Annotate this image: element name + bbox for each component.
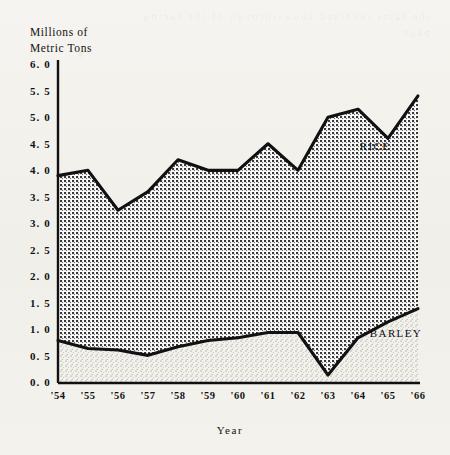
y-tick-label: 2. 0: [30, 270, 51, 282]
y-tick-label: 0. 0: [30, 376, 51, 388]
x-tick-label: '54: [50, 390, 65, 401]
y-axis-tick-labels: 6. 0 5. 5 5. 0 4. 5 4. 0 3. 5 3. 0 2. 5 …: [30, 58, 51, 388]
y-tick-label: 1. 5: [30, 297, 51, 309]
x-axis-title: Year: [217, 424, 244, 436]
y-tick-label: 3. 0: [30, 217, 51, 229]
barley-series-label: BARLEY: [370, 327, 422, 339]
x-tick-label: '55: [80, 390, 95, 401]
y-tick-label: 2. 5: [30, 244, 51, 256]
x-tick-label: '60: [230, 390, 245, 401]
x-tick-label: '66: [410, 390, 425, 401]
y-tick-label: 3. 5: [30, 191, 51, 203]
y-tick-label: 4. 5: [30, 138, 51, 150]
x-tick-label: '59: [200, 390, 215, 401]
chart-root: Millions of Metric Tons 6. 0 5. 5 5. 0 4…: [0, 0, 450, 455]
x-tick-label: '58: [170, 390, 185, 401]
y-tick-label: 5. 0: [30, 111, 51, 123]
y-tick-label: 1. 0: [30, 323, 51, 335]
x-tick-label: '57: [140, 390, 155, 401]
x-tick-label: '62: [290, 390, 305, 401]
y-tick-label: 5. 5: [30, 85, 51, 97]
y-tick-label: 6. 0: [30, 58, 51, 70]
x-tick-label: '63: [320, 390, 335, 401]
x-axis-tick-labels: '54'55'56'57'58'59'60'61'62'63'64'65'66: [50, 390, 425, 401]
x-tick-label: '61: [260, 390, 275, 401]
y-tick-label: 4. 0: [30, 164, 51, 176]
rice-series-label: RICE: [360, 140, 391, 152]
y-axis-title-line2: Metric Tons: [30, 42, 92, 54]
y-axis-title-line1: Millions of: [30, 26, 88, 38]
area-chart: Millions of Metric Tons 6. 0 5. 5 5. 0 4…: [0, 0, 450, 455]
x-tick-label: '56: [110, 390, 125, 401]
x-tick-label: '64: [350, 390, 365, 401]
y-tick-label: 0. 5: [30, 350, 51, 362]
x-tick-label: '65: [380, 390, 395, 401]
